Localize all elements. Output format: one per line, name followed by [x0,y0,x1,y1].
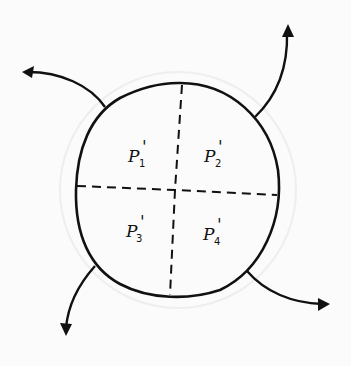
svg-text:1: 1 [139,158,145,169]
arrowhead-top-right-icon [282,24,294,37]
svg-text:': ' [140,211,145,231]
svg-text:': ' [217,214,222,234]
svg-text:': ' [218,136,223,156]
arrow-top-left [28,72,105,107]
arrow-bottom-left [66,266,95,328]
partition-diagram: P ' 1 P ' 2 P ' 3 P ' 4 [0,0,351,366]
arrowhead-top-left-icon [22,66,34,78]
horizontal-divider [77,186,277,195]
ghost-circle [60,72,296,308]
label-p2: P ' 2 [203,136,223,169]
label-p1: P ' 1 [127,136,147,169]
svg-text:3: 3 [136,233,142,244]
svg-text:4: 4 [214,236,220,247]
svg-text:2: 2 [215,158,221,169]
label-p4: P ' 4 [202,214,222,247]
region-circle [76,83,279,297]
arrowhead-bottom-left-icon [60,323,72,336]
svg-text:': ' [142,136,147,156]
label-p3: P ' 3 [125,211,145,244]
arrowhead-bottom-right-icon [318,298,330,311]
